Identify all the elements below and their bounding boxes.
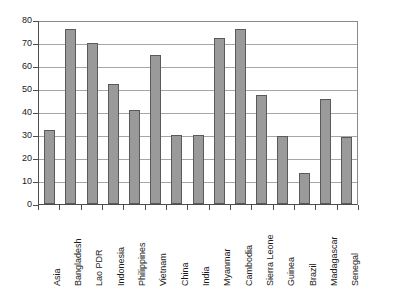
x-axis-label: Vietnam bbox=[159, 253, 168, 286]
bar-slot bbox=[124, 21, 145, 204]
x-tick-mark bbox=[273, 205, 274, 210]
x-axis-label: Sierra Leone bbox=[266, 234, 275, 286]
x-tick-mark bbox=[102, 205, 103, 210]
x-axis-label: Senegal bbox=[351, 253, 360, 286]
bar[interactable] bbox=[65, 29, 76, 204]
bar[interactable] bbox=[320, 99, 331, 204]
x-axis-label: Guinea bbox=[287, 257, 296, 286]
x-axis-label: Bangladesh bbox=[74, 238, 83, 286]
x-tick-mark bbox=[337, 205, 338, 210]
y-tick-label: 0 bbox=[8, 200, 32, 209]
y-tick-label: 80 bbox=[8, 16, 32, 25]
bar-slot bbox=[187, 21, 208, 204]
bar[interactable] bbox=[87, 43, 98, 204]
x-tick-mark bbox=[38, 205, 39, 210]
x-axis-label: Brazil bbox=[309, 263, 318, 286]
x-axis-label: Myanmar bbox=[223, 248, 232, 286]
bar-slot bbox=[315, 21, 336, 204]
x-axis-ticks bbox=[38, 205, 358, 210]
x-tick-mark bbox=[59, 205, 60, 210]
bar[interactable] bbox=[235, 29, 246, 204]
x-axis-label: India bbox=[202, 266, 211, 286]
x-tick-mark bbox=[230, 205, 231, 210]
bar[interactable] bbox=[277, 136, 288, 204]
bar[interactable] bbox=[256, 95, 267, 204]
plot-area bbox=[38, 21, 358, 205]
bar-slot bbox=[103, 21, 124, 204]
x-tick-mark bbox=[251, 205, 252, 210]
x-tick-mark bbox=[123, 205, 124, 210]
bar[interactable] bbox=[341, 137, 352, 204]
x-tick-mark bbox=[358, 205, 359, 210]
bar-slot bbox=[166, 21, 187, 204]
y-tick-label: 50 bbox=[8, 85, 32, 94]
bar[interactable] bbox=[299, 173, 310, 204]
x-tick-mark bbox=[294, 205, 295, 210]
bar[interactable] bbox=[171, 135, 182, 204]
x-tick-mark bbox=[315, 205, 316, 210]
bar[interactable] bbox=[150, 55, 161, 205]
bar-slot bbox=[272, 21, 293, 204]
x-axis-label: Lao PDR bbox=[95, 249, 104, 286]
bar-chart: 01020304050607080 AsiaBangladeshLao PDRI… bbox=[0, 0, 397, 291]
bar[interactable] bbox=[214, 38, 225, 204]
x-axis-label: China bbox=[181, 262, 190, 286]
bar[interactable] bbox=[44, 130, 55, 204]
x-axis-labels: AsiaBangladeshLao PDRIndonesiaPhilippine… bbox=[38, 212, 358, 288]
x-axis-label: Asia bbox=[53, 268, 62, 286]
x-tick-mark bbox=[166, 205, 167, 210]
y-tick-label: 10 bbox=[8, 177, 32, 186]
x-tick-mark bbox=[187, 205, 188, 210]
bar-slot bbox=[60, 21, 81, 204]
y-tick-label: 20 bbox=[8, 154, 32, 163]
x-axis-label: Indonesia bbox=[117, 247, 126, 286]
bar-slot bbox=[145, 21, 166, 204]
bar[interactable] bbox=[129, 110, 140, 204]
bars-container bbox=[39, 21, 357, 204]
x-tick-mark bbox=[209, 205, 210, 210]
y-tick-label: 30 bbox=[8, 131, 32, 140]
bar-slot bbox=[209, 21, 230, 204]
x-tick-mark bbox=[145, 205, 146, 210]
bar-slot bbox=[230, 21, 251, 204]
bar-slot bbox=[336, 21, 357, 204]
bar-slot bbox=[39, 21, 60, 204]
bar[interactable] bbox=[108, 84, 119, 204]
bar-slot bbox=[293, 21, 314, 204]
y-tick-label: 40 bbox=[8, 108, 32, 117]
x-axis-label: Madagascar bbox=[330, 236, 339, 286]
y-tick-label: 60 bbox=[8, 62, 32, 71]
bar-slot bbox=[81, 21, 102, 204]
x-axis-label: Philippines bbox=[138, 242, 147, 286]
bar[interactable] bbox=[193, 135, 204, 204]
x-axis-label: Cambodia bbox=[245, 245, 254, 286]
y-tick-label: 70 bbox=[8, 39, 32, 48]
bar-slot bbox=[251, 21, 272, 204]
x-tick-mark bbox=[81, 205, 82, 210]
